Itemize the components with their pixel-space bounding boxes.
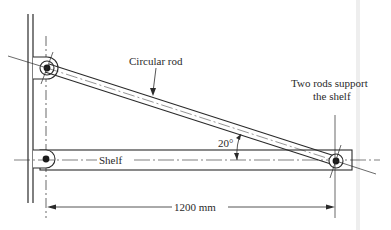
angle-arrow-bottom [234,153,239,160]
page-edge-shade [356,0,360,230]
wall [28,14,33,203]
dimension-arrow-left [47,205,56,210]
lower-left-pin [43,156,50,163]
angle-label: 20° [218,137,233,149]
rod-label: Circular rod [129,55,183,67]
dimension-label: 1200 mm [174,201,216,213]
dimension-arrow-right [326,205,335,210]
support-label-line1: Two rods support [291,77,368,89]
support-label-line2: the shelf [313,90,351,102]
shelf-support-diagram: Shelf 20° Circular rod Two rods support … [0,0,391,230]
shelf-label: Shelf [99,154,123,166]
rod-leader-arrow [150,88,156,96]
angle-arrow-top [236,134,241,140]
